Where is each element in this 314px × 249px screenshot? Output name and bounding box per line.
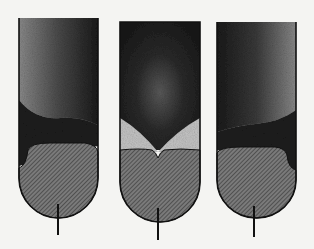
three-tube-figure — [0, 0, 314, 249]
tube-left — [19, 18, 98, 235]
tube-right — [217, 22, 296, 237]
tube-middle — [120, 22, 200, 240]
